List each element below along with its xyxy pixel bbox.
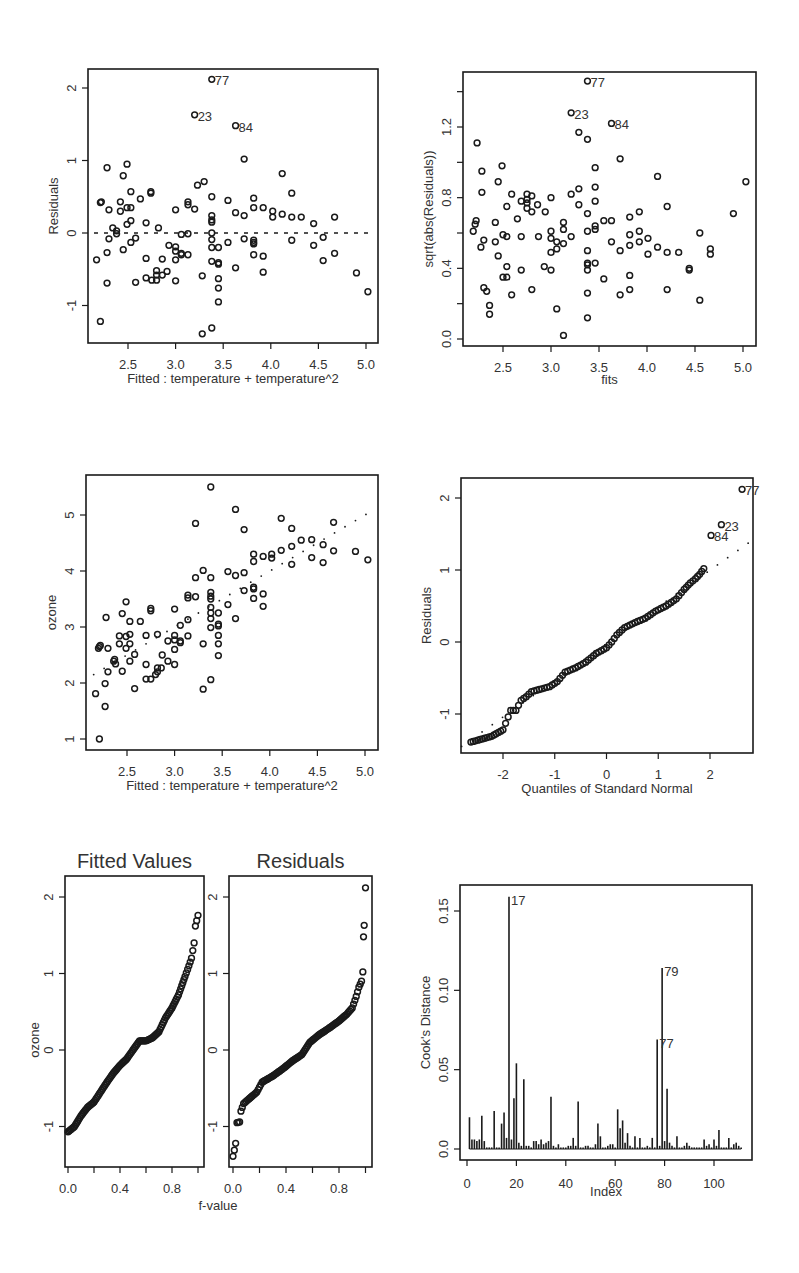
data-point: [311, 242, 317, 248]
data-point: [105, 669, 111, 675]
y-tick-label: 5: [62, 511, 77, 518]
data-point: [104, 165, 110, 171]
data-point: [529, 209, 535, 215]
data-point: [601, 218, 607, 224]
data-point: [225, 240, 231, 246]
data-point: [193, 575, 199, 581]
y-tick-label: -1: [41, 1121, 56, 1133]
data-point: [173, 278, 179, 284]
data-point: [627, 273, 633, 279]
panel-residuals-vs-fitted: 2.53.03.54.04.55.0-1012Fitted : temperat…: [46, 69, 378, 386]
data-point: [472, 221, 478, 227]
data-point: [289, 190, 295, 196]
reference-dot: [491, 724, 493, 726]
shared-xlabel-f-value: f-value: [198, 1198, 237, 1213]
plot-frame: [88, 69, 378, 343]
data-point: [535, 202, 541, 208]
data-point: [592, 184, 598, 190]
data-point: [251, 195, 257, 201]
data-point: [233, 616, 239, 622]
data-point: [492, 239, 498, 245]
x-tick-label: 0.4: [277, 1181, 295, 1196]
data-point: [173, 257, 179, 263]
data-point: [94, 257, 100, 263]
data-point: [128, 205, 134, 211]
data-point: [332, 214, 338, 220]
data-point: [117, 208, 123, 214]
data-point: [137, 196, 143, 202]
data-point: [156, 225, 162, 231]
data-point: [592, 260, 598, 266]
data-point: [116, 641, 122, 647]
y-tick-label: 2: [64, 84, 79, 91]
data-point: [541, 264, 547, 270]
panel-title: Fitted Values: [77, 850, 192, 872]
y-tick-label: 0: [41, 1046, 56, 1053]
y-tick-label: 1: [205, 970, 220, 977]
data-point: [165, 638, 171, 644]
data-point: [269, 555, 275, 561]
data-point: [209, 258, 215, 264]
data-point: [474, 140, 480, 146]
y-tick-label: 0: [64, 229, 79, 236]
data-point: [106, 236, 112, 242]
data-point: [536, 234, 542, 240]
data-point: [320, 542, 326, 548]
data-point: [645, 235, 651, 241]
y-tick-label: 0.10: [436, 978, 451, 1003]
x-tick-label: 2.5: [494, 360, 512, 375]
data-point: [279, 171, 285, 177]
data-point: [158, 665, 164, 671]
data-point: [97, 319, 103, 325]
data-point: [481, 237, 487, 243]
data-point: [102, 681, 108, 687]
data-point: [133, 279, 139, 285]
reference-dot: [187, 618, 189, 620]
data-point: [201, 179, 207, 185]
data-point: [627, 232, 633, 238]
reference-dot: [313, 544, 315, 546]
reference-dot: [727, 557, 729, 559]
data-point: [124, 221, 130, 227]
data-point: [361, 934, 367, 940]
data-point: [585, 211, 591, 217]
y-tick-label: -1: [205, 1121, 220, 1133]
data-point: [260, 269, 266, 275]
x-tick-label: 0.4: [111, 1181, 129, 1196]
data-point: [233, 573, 239, 579]
y-tick-label: 0: [205, 1046, 220, 1053]
outlier-label: 79: [664, 964, 678, 979]
y-axis-label: Residuals: [419, 586, 434, 644]
data-point: [225, 602, 231, 608]
data-point: [172, 647, 178, 653]
data-point: [617, 156, 623, 162]
data-point: [216, 299, 222, 305]
y-tick-label: 1: [437, 566, 452, 573]
x-tick-label: 5.0: [734, 360, 752, 375]
data-point: [127, 619, 133, 625]
data-point: [241, 588, 247, 594]
outlier-label: 23: [198, 109, 212, 124]
reference-dot: [260, 575, 262, 577]
data-point: [200, 568, 206, 574]
data-point: [200, 686, 206, 692]
data-point: [143, 220, 149, 226]
data-point: [298, 537, 304, 543]
data-point: [601, 276, 607, 282]
data-point: [561, 227, 567, 233]
data-point: [676, 250, 682, 256]
data-point: [331, 548, 337, 554]
data-point: [609, 218, 615, 224]
reference-dot: [344, 526, 346, 528]
plot-frame: [461, 478, 753, 753]
data-point: [104, 280, 110, 286]
data-point: [361, 922, 367, 928]
data-point: [585, 290, 591, 296]
data-point: [120, 247, 126, 253]
x-tick-label: 20: [509, 1176, 523, 1191]
x-tick-label: 0.8: [163, 1181, 181, 1196]
x-tick-label: 4.0: [261, 764, 279, 779]
data-point: [576, 202, 582, 208]
data-point: [576, 186, 582, 192]
data-point: [554, 246, 560, 252]
